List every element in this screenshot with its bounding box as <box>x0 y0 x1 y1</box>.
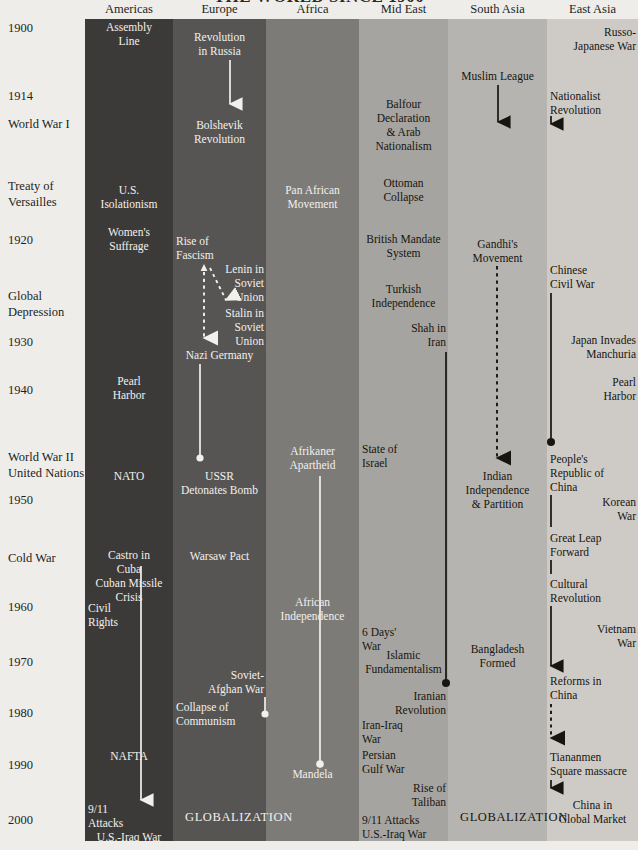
event-label: Bolshevik <box>159 119 280 133</box>
event-label: Independence <box>252 610 373 624</box>
year-tick: Global <box>8 289 42 304</box>
event-label: NAFTA <box>71 750 187 764</box>
event-label: State of <box>362 443 397 457</box>
year-axis: 19001914World War ITreaty ofVersailles19… <box>0 0 85 850</box>
event-label: Lenin in <box>161 263 264 277</box>
event-label: Revolution <box>550 104 601 118</box>
year-tick: 1920 <box>8 233 33 248</box>
event-label: War <box>535 637 636 651</box>
event-label: Soviet <box>161 277 264 291</box>
year-tick: World War I <box>8 117 70 132</box>
event-label: Iran <box>347 336 446 350</box>
event-label: Iranian <box>347 690 446 704</box>
event-label: War <box>535 510 636 524</box>
event-label: Harbor <box>535 390 636 404</box>
column-header-south-asia: South Asia <box>448 2 547 17</box>
event-label: Tiananmen <box>550 751 601 765</box>
event-label: Suffrage <box>71 240 187 254</box>
column-header-europe: Europe <box>173 2 266 17</box>
event-label: Mandela <box>252 768 373 782</box>
event-label: Japanese War <box>535 40 636 54</box>
year-tick: Treaty of <box>8 179 54 194</box>
event-label: Nationalist <box>550 90 600 104</box>
event-label: Gandhi's <box>434 238 561 252</box>
event-label: Women's <box>71 226 187 240</box>
event-label: Vietnam <box>535 623 636 637</box>
event-label: Balfour <box>345 98 462 112</box>
timeline-chart: THE WORLD SINCE 1900 19001914World War I… <box>0 0 638 850</box>
event-label: Great Leap <box>550 532 601 546</box>
event-label: & Arab <box>345 126 462 140</box>
event-label: Apartheid <box>252 459 373 473</box>
event-label: Russo- <box>535 26 636 40</box>
event-label: Revolution <box>159 31 280 45</box>
event-label: Harbor <box>71 389 187 403</box>
event-label: Stalin in <box>161 307 264 321</box>
event-label: in Russia <box>159 45 280 59</box>
column-header-americas: Americas <box>85 2 173 17</box>
event-label: Manchuria <box>535 348 636 362</box>
event-label: Declaration <box>345 112 462 126</box>
event-label: Nazi Germany <box>159 349 280 363</box>
event-label: Rights <box>88 616 118 630</box>
event-label: Warsaw Pact <box>159 550 280 564</box>
event-label: Isolationism <box>71 198 187 212</box>
event-label: U.S.-Iraq War <box>71 831 187 845</box>
event-label: Revolution <box>550 592 601 606</box>
year-tick: 1980 <box>8 706 33 721</box>
year-tick: 1940 <box>8 383 33 398</box>
event-label: Soviet <box>161 321 264 335</box>
column-header-mid-east: Mid East <box>359 2 448 17</box>
event-label: Rise of <box>176 235 209 249</box>
year-tick: 1970 <box>8 655 33 670</box>
event-label: Israel <box>362 457 388 471</box>
event-label: Civil War <box>550 278 595 292</box>
event-label: Attacks <box>88 817 123 831</box>
event-label: Reforms in <box>550 675 601 689</box>
region-band-south-asia <box>448 19 547 841</box>
year-tick: 1960 <box>8 600 33 615</box>
event-label: Taliban <box>347 796 446 810</box>
event-label: War <box>362 733 381 747</box>
event-label: Chinese <box>550 264 587 278</box>
event-label: Iran-Iraq <box>362 719 403 733</box>
event-label: GLOBALIZATION <box>167 811 350 825</box>
event-label: Square massacre <box>550 765 627 779</box>
event-label: Cultural <box>550 578 588 592</box>
event-label: People's <box>550 453 588 467</box>
event-label: Afghan War <box>161 683 264 697</box>
event-label: Revolution <box>159 133 280 147</box>
year-tick: 1900 <box>8 21 33 36</box>
event-label: Persian <box>362 749 396 763</box>
event-label: Nationalism <box>345 140 462 154</box>
event-label: Civil <box>88 602 111 616</box>
event-label: Global Market <box>533 813 638 827</box>
event-label: Soviet- <box>161 669 264 683</box>
event-label: 9/11 <box>88 803 108 817</box>
event-label: Republic of <box>550 467 604 481</box>
event-label: China in <box>533 799 638 813</box>
year-tick: 1914 <box>8 89 33 104</box>
event-label: Turkish <box>345 283 462 297</box>
year-tick: 1930 <box>8 335 33 350</box>
event-label: Movement <box>434 252 561 266</box>
event-label: Indian <box>434 470 561 484</box>
event-label: Muslim League <box>434 70 561 84</box>
event-label: Pearl <box>71 375 187 389</box>
event-label: 6 Days' <box>362 626 396 640</box>
column-header-east-asia: East Asia <box>547 2 638 17</box>
event-label: Forward <box>550 546 589 560</box>
event-label: Ottoman <box>345 177 462 191</box>
event-label: Collapse <box>345 191 462 205</box>
event-label: Collapse of <box>176 701 229 715</box>
event-label: U.S. <box>71 184 187 198</box>
year-tick: Versailles <box>8 195 57 210</box>
event-label: China <box>550 689 577 703</box>
event-label: Union <box>161 291 264 305</box>
event-label: Japan Invades <box>535 334 636 348</box>
year-tick: Cold War <box>8 551 56 566</box>
year-tick: World War II <box>8 450 74 465</box>
event-label: Detonates Bomb <box>159 484 280 498</box>
region-band-east-asia <box>547 19 638 841</box>
column-header-africa: Africa <box>266 2 359 17</box>
